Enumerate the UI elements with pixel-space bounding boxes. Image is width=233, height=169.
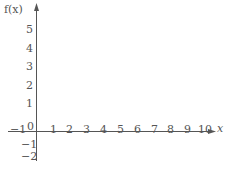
y-tick-label: 2 <box>26 80 33 91</box>
y-tick-label: 3 <box>26 61 33 72</box>
y-axis-label: f(x) <box>4 4 23 15</box>
x-tick-label: 2 <box>66 124 73 135</box>
x-tick-label: 5 <box>117 124 124 135</box>
y-tick-label: 4 <box>26 43 33 54</box>
y-tick-label: 1 <box>26 98 33 109</box>
x-axis-label: x <box>217 123 223 134</box>
x-tick-label-neg1: −1 <box>10 124 26 135</box>
x-tick-label: 7 <box>151 124 158 135</box>
x-tick-label: 10 <box>198 124 212 135</box>
empty-coordinate-axes-chart: f(x) x 5 4 3 2 1 −1 −2 −1 0 1 2 3 4 5 6 … <box>0 0 233 169</box>
origin-label: 0 <box>27 121 34 132</box>
x-tick-label: 3 <box>83 124 90 135</box>
x-tick-label: 1 <box>50 124 57 135</box>
x-tick-label: 8 <box>167 124 174 135</box>
x-tick-label: 6 <box>134 124 141 135</box>
x-tick-label: 4 <box>100 124 107 135</box>
y-tick-label: 5 <box>26 24 33 35</box>
y-axis-arrow-icon <box>34 3 39 11</box>
y-tick-label: −2 <box>21 151 37 162</box>
x-tick-label: 9 <box>184 124 191 135</box>
y-tick-label: −1 <box>21 139 37 150</box>
